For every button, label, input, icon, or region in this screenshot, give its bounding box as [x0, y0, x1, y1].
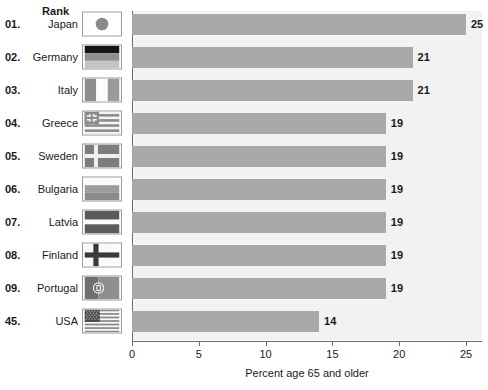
bar: [132, 278, 386, 299]
bar-value-label: 25: [471, 14, 483, 35]
country-name: Latvia: [24, 216, 78, 228]
x-tick-label: 20: [384, 348, 414, 360]
table-row: 05.Sweden: [0, 140, 126, 173]
table-row: 09.Portugal: [0, 272, 126, 305]
rank-number: 09.: [5, 282, 20, 294]
rank-label-column: Rank 01.Japan02.Germany03.Italy04.Greece…: [0, 0, 126, 390]
flag-germany-icon: [82, 45, 122, 70]
country-name: USA: [24, 315, 78, 327]
flag-italy-icon: [82, 78, 122, 103]
x-tick-label: 10: [251, 348, 281, 360]
x-tick-label: 25: [451, 348, 481, 360]
x-tick-mark: [332, 341, 333, 346]
flag-japan-icon: [82, 12, 122, 37]
bar: [132, 113, 386, 134]
flag-bulgaria-icon: [82, 177, 122, 202]
flag-finland-icon: [82, 243, 122, 268]
rank-number: 02.: [5, 51, 20, 63]
country-name: Finland: [24, 249, 78, 261]
country-name: Portugal: [24, 282, 78, 294]
flag-usa-icon: [82, 309, 122, 334]
country-name: Italy: [24, 84, 78, 96]
table-row: 08.Finland: [0, 239, 126, 272]
table-row: 01.Japan: [0, 8, 126, 41]
bar: [132, 179, 386, 200]
flag-greece-icon: [82, 111, 122, 136]
bar-value-label: 19: [391, 245, 403, 266]
bar: [132, 212, 386, 233]
rank-number: 03.: [5, 84, 20, 96]
bar-value-label: 19: [391, 179, 403, 200]
bar: [132, 245, 386, 266]
bar-value-label: 19: [391, 146, 403, 167]
table-row: 06.Bulgaria: [0, 173, 126, 206]
bar-value-label: 21: [418, 80, 430, 101]
country-name: Sweden: [24, 150, 78, 162]
rank-number: 08.: [5, 249, 20, 261]
country-name: Bulgaria: [24, 183, 78, 195]
x-tick-label: 0: [117, 348, 147, 360]
x-tick-mark: [199, 341, 200, 346]
bar-value-label: 19: [391, 278, 403, 299]
rank-number: 05.: [5, 150, 20, 162]
bar-value-label: 19: [391, 113, 403, 134]
rank-number: 07.: [5, 216, 20, 228]
x-tick-label: 5: [184, 348, 214, 360]
rank-number: 04.: [5, 117, 20, 129]
x-tick-label: 15: [317, 348, 347, 360]
table-row: 04.Greece: [0, 107, 126, 140]
table-row: 07.Latvia: [0, 206, 126, 239]
x-axis-title: Percent age 65 and older: [132, 367, 482, 379]
table-row: 45.USA: [0, 305, 126, 338]
rank-number: 01.: [5, 18, 20, 30]
flag-latvia-icon: [82, 210, 122, 235]
table-row: 03.Italy: [0, 74, 126, 107]
country-name: Greece: [24, 117, 78, 129]
bar: [132, 80, 413, 101]
rank-number: 45.: [5, 315, 20, 327]
country-name: Germany: [24, 51, 78, 63]
country-name: Japan: [24, 18, 78, 30]
table-row: 02.Germany: [0, 41, 126, 74]
flag-sweden-icon: [82, 144, 122, 169]
chart-container: Rank 01.Japan02.Germany03.Italy04.Greece…: [0, 0, 488, 390]
bar-value-label: 21: [418, 47, 430, 68]
bar-value-label: 19: [391, 212, 403, 233]
bar: [132, 47, 413, 68]
x-axis-line: [132, 341, 482, 342]
rank-number: 06.: [5, 183, 20, 195]
bar: [132, 14, 466, 35]
x-tick-mark: [466, 341, 467, 346]
bar-value-label: 14: [324, 311, 336, 332]
x-tick-mark: [399, 341, 400, 346]
x-tick-mark: [266, 341, 267, 346]
x-tick-mark: [132, 341, 133, 346]
bar: [132, 146, 386, 167]
bar: [132, 311, 319, 332]
flag-portugal-icon: [82, 276, 122, 301]
